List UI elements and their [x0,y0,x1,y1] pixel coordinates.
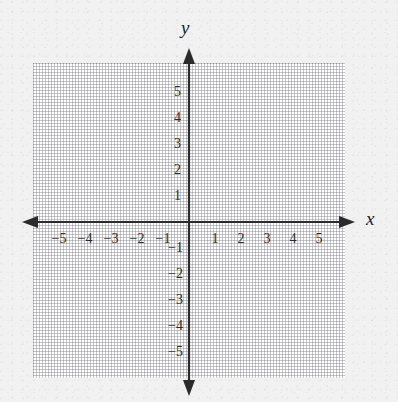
y-tick-label: −5 [168,345,183,359]
y-axis-bottom-arrowhead [183,380,195,396]
coordinate-grid-figure: −5 −4 −3 −2 −1 1 2 3 4 5 5 4 3 2 1 −1 −2… [0,0,398,402]
x-tick-label: −2 [130,232,145,246]
y-tick-label: 5 [174,85,181,99]
y-axis-name-label: y [181,18,189,37]
y-axis-top-arrowhead [183,48,195,64]
x-axis-name-label: x [366,209,374,228]
x-tick-label: 3 [264,232,271,246]
x-tick-label: 5 [316,232,323,246]
plot-panel [33,63,345,378]
y-tick-label: 2 [174,163,181,177]
grid-vertical-lines [33,63,345,378]
y-tick-label: 4 [174,111,181,125]
x-tick-label: −4 [78,232,93,246]
x-tick-label: 2 [238,232,245,246]
x-tick-label: 4 [290,232,297,246]
y-tick-label: −2 [168,267,183,281]
x-tick-label: −5 [52,232,67,246]
y-tick-label: 1 [174,189,181,203]
y-tick-label: −3 [168,293,183,307]
grid-horizontal-lines [33,63,345,378]
x-tick-label: 1 [212,232,219,246]
x-tick-label: −3 [104,232,119,246]
y-tick-label: −1 [168,241,183,255]
y-tick-label: 3 [174,137,181,151]
y-tick-label: −4 [168,319,183,333]
